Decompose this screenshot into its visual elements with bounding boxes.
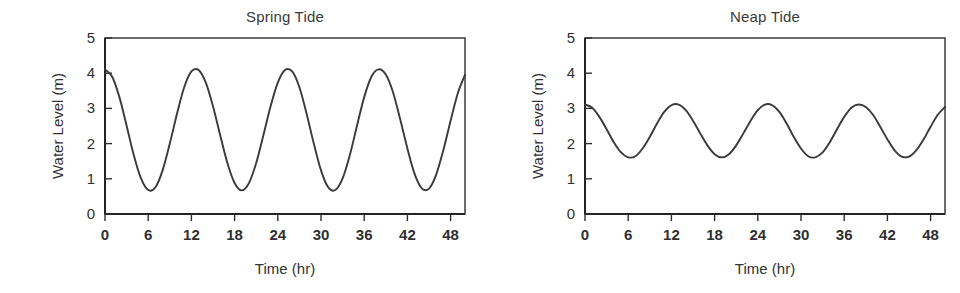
x-tick-label: 6 [144, 226, 152, 243]
y-tick-label: 1 [87, 170, 95, 187]
x-tick-label: 0 [101, 226, 109, 243]
x-tick-label: 36 [836, 226, 853, 243]
y-axis-label: Water Level (m) [529, 73, 546, 179]
y-tick-label: 2 [567, 135, 575, 152]
chart-panel-neap-tide: 0123450612182430364248Neap TideTime (hr)… [480, 0, 960, 293]
x-tick-label: 0 [581, 226, 589, 243]
x-tick-label: 30 [313, 226, 330, 243]
y-tick-label: 3 [567, 99, 575, 116]
x-tick-label: 42 [879, 226, 896, 243]
x-tick-label: 6 [624, 226, 632, 243]
chart-panel-spring-tide: 0123450612182430364248Spring TideTime (h… [0, 0, 480, 293]
x-tick-label: 12 [183, 226, 200, 243]
x-axis-label: Time (hr) [735, 260, 795, 277]
plot-frame [585, 38, 945, 214]
neap-tide-chart-svg: 0123450612182430364248Neap TideTime (hr)… [480, 0, 960, 293]
chart-title: Spring Tide [246, 8, 324, 25]
chart-title: Neap Tide [730, 8, 800, 25]
x-tick-label: 48 [922, 226, 939, 243]
x-tick-label: 30 [793, 226, 810, 243]
x-tick-label: 18 [706, 226, 723, 243]
y-tick-label: 4 [567, 64, 575, 81]
y-axis-label: Water Level (m) [49, 73, 66, 179]
x-tick-label: 24 [269, 226, 286, 243]
spring-tide-chart-svg: 0123450612182430364248Spring TideTime (h… [0, 0, 480, 293]
y-tick-label: 1 [567, 170, 575, 187]
data-series-line [105, 69, 465, 191]
x-tick-label: 12 [663, 226, 680, 243]
x-tick-label: 42 [399, 226, 416, 243]
x-tick-label: 48 [442, 226, 459, 243]
x-tick-label: 24 [749, 226, 766, 243]
y-tick-label: 5 [87, 29, 95, 46]
y-tick-label: 2 [87, 135, 95, 152]
y-tick-label: 4 [87, 64, 95, 81]
y-tick-label: 5 [567, 29, 575, 46]
data-series-line [585, 104, 945, 158]
plot-frame [105, 38, 465, 214]
y-tick-label: 3 [87, 99, 95, 116]
y-tick-label: 0 [567, 205, 575, 222]
x-tick-label: 18 [226, 226, 243, 243]
x-axis-label: Time (hr) [255, 260, 315, 277]
tide-figure: 0123450612182430364248Spring TideTime (h… [0, 0, 960, 293]
x-tick-label: 36 [356, 226, 373, 243]
y-tick-label: 0 [87, 205, 95, 222]
